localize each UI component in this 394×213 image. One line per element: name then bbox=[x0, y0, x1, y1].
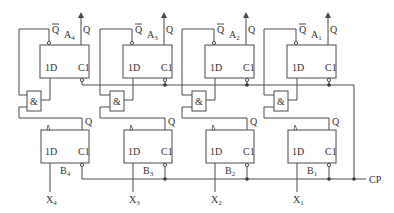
svg-text:C1: C1 bbox=[78, 146, 90, 157]
svg-text:Q: Q bbox=[135, 24, 143, 35]
a1-name: A1 bbox=[311, 29, 322, 42]
svg-text:C1: C1 bbox=[325, 62, 337, 73]
svg-text:1D: 1D bbox=[292, 62, 304, 73]
svg-text:1D: 1D bbox=[210, 62, 222, 73]
input-x3: X3 bbox=[129, 194, 140, 207]
svg-text:C1: C1 bbox=[161, 146, 173, 157]
cp-label: CP bbox=[369, 174, 382, 185]
b4-name: B4 bbox=[60, 165, 71, 178]
a4-qbar-label: Q bbox=[52, 24, 60, 35]
a2-name: A2 bbox=[229, 29, 240, 42]
a3-name: A3 bbox=[147, 29, 158, 42]
svg-text:Q: Q bbox=[85, 116, 93, 127]
svg-text:Q: Q bbox=[250, 116, 258, 127]
svg-text:Q: Q bbox=[332, 116, 340, 127]
a4-name: A4 bbox=[64, 29, 75, 42]
b3-name: B3 bbox=[143, 165, 154, 178]
svg-text:&: & bbox=[30, 96, 38, 107]
svg-text:1D: 1D bbox=[128, 146, 140, 157]
svg-text:&: & bbox=[277, 96, 285, 107]
b1-name: B1 bbox=[307, 165, 318, 178]
svg-text:1D: 1D bbox=[292, 146, 304, 157]
svg-text:1D: 1D bbox=[45, 146, 57, 157]
input-x4: X4 bbox=[46, 194, 57, 207]
svg-text:Q: Q bbox=[168, 116, 176, 127]
input-x1: X1 bbox=[293, 194, 304, 207]
a4-c-label: C1 bbox=[78, 62, 90, 73]
svg-text:1D: 1D bbox=[128, 62, 140, 73]
svg-text:1D: 1D bbox=[210, 146, 222, 157]
svg-text:C1: C1 bbox=[161, 62, 173, 73]
svg-text:Q: Q bbox=[248, 24, 256, 35]
svg-text:Q: Q bbox=[330, 24, 338, 35]
svg-text:&: & bbox=[113, 96, 121, 107]
svg-text:Q: Q bbox=[166, 24, 174, 35]
svg-text:C1: C1 bbox=[325, 146, 337, 157]
input-x2: X2 bbox=[211, 194, 222, 207]
svg-text:&: & bbox=[195, 96, 203, 107]
a4-qbar-bubble bbox=[47, 41, 50, 44]
svg-text:Q: Q bbox=[299, 24, 307, 35]
a4-clock-bubble bbox=[80, 78, 83, 81]
cp-bus bbox=[82, 167, 366, 179]
svg-text:C1: C1 bbox=[243, 146, 255, 157]
svg-text:Q: Q bbox=[217, 24, 225, 35]
a4-q-label: Q bbox=[83, 24, 91, 35]
svg-text:C1: C1 bbox=[243, 62, 255, 73]
b2-name: B2 bbox=[225, 165, 236, 178]
circuit-diagram: 1D C1 Q A4 Q & Q 1D C1 B4 X4 1D C1 Q A3 bbox=[0, 0, 394, 213]
a4-d-label: 1D bbox=[45, 62, 57, 73]
